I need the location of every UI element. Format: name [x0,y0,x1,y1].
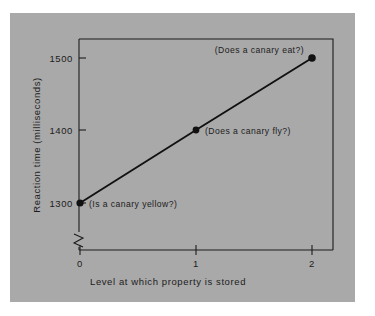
figure-container: 1500 1400 1300 0 1 2 Level at which prop… [0,0,375,316]
data-point-level-1 [193,127,200,134]
y-axis-break-icon [74,234,83,247]
data-point-level-0 [76,199,83,206]
x-tick-label-1: 1 [193,258,199,269]
plot-frame [79,39,333,250]
y-axis-title: Reaction time (milliseconds) [31,77,42,213]
x-axis-title: Level at which property is stored [90,276,246,287]
annotation-does-a-canary-fly: (Does a canary fly?) [205,126,291,136]
y-tick-label-1500: 1500 [49,53,73,64]
x-tick-label-0: 0 [77,258,83,269]
annotation-is-a-canary-yellow: (Is a canary yellow?) [89,199,177,209]
annotation-does-a-canary-eat: (Does a canary eat?) [215,45,304,55]
y-tick-label-1400: 1400 [49,125,73,136]
x-tick-label-2: 2 [309,258,315,269]
chart-canvas: 1500 1400 1300 0 1 2 Level at which prop… [0,0,375,316]
y-tick-label-1300: 1300 [49,198,73,209]
data-point-level-2 [308,54,316,62]
